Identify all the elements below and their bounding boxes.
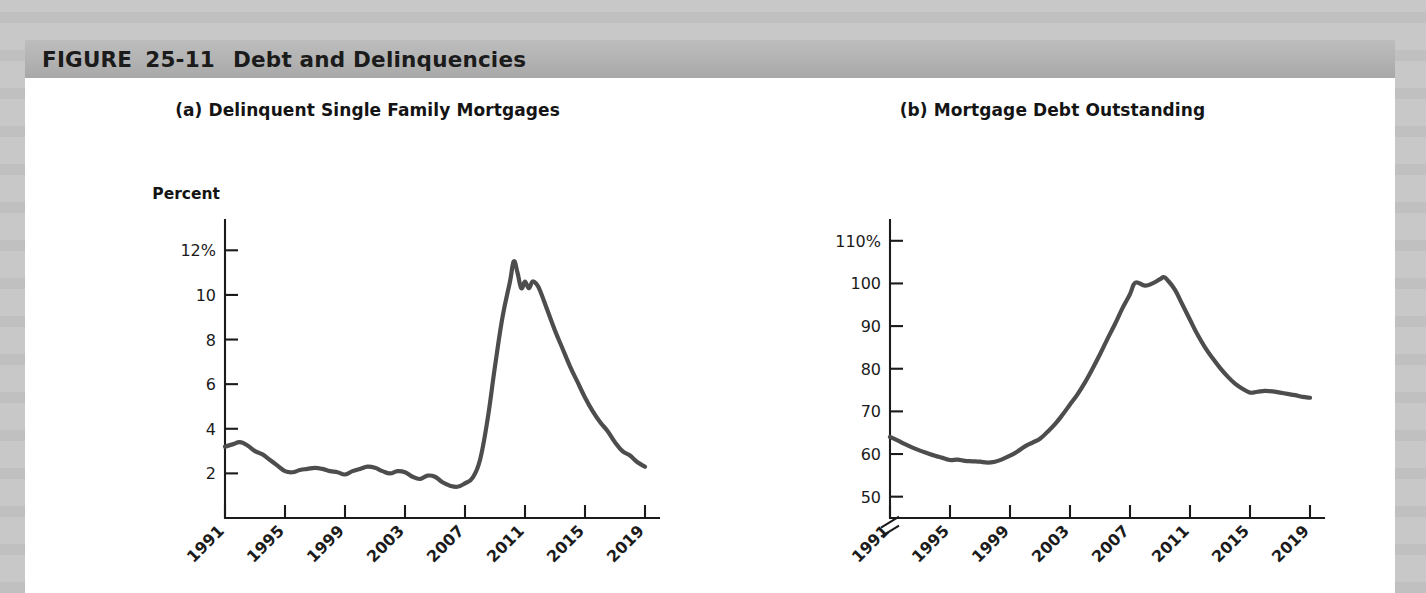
y-tick-label: 50	[861, 488, 881, 507]
x-tick-label: 1995	[908, 521, 953, 566]
panel-b-plot: 5060708090100110%19911995199920032007201…	[710, 78, 1395, 593]
x-tick-label: 2019	[1268, 521, 1313, 566]
x-tick-label: 2019	[603, 521, 648, 566]
x-tick-label: 2011	[1148, 521, 1193, 566]
x-tick-label: 1991	[848, 521, 893, 566]
x-tick-label: 2003	[1028, 521, 1073, 566]
y-tick-label: 12%	[180, 241, 216, 260]
y-tick-label: 4	[206, 420, 216, 439]
y-tick-label: 90	[861, 317, 881, 336]
x-tick-label: 2007	[423, 521, 468, 566]
y-tick-label: 100	[850, 274, 881, 293]
y-tick-label: 60	[861, 445, 881, 464]
x-tick-label: 1999	[968, 521, 1013, 566]
x-tick-label: 1995	[243, 521, 288, 566]
x-tick-label: 2015	[1208, 521, 1253, 566]
y-tick-label: 110%	[835, 232, 881, 251]
figure-title: Debt and Delinquencies	[233, 47, 526, 72]
y-tick-label: 6	[206, 375, 216, 394]
data-series-line	[890, 277, 1310, 463]
panel-b: (b) Mortgage Debt Outstanding Percent of…	[710, 78, 1395, 593]
x-tick-label: 2007	[1088, 521, 1133, 566]
axis-lines	[890, 220, 1324, 518]
panel-a-plot: 24681012%1991199519992003200720112015201…	[25, 78, 710, 593]
y-tick-label: 70	[861, 402, 881, 421]
y-tick-label: 80	[861, 360, 881, 379]
x-tick-label: 2015	[543, 521, 588, 566]
data-series-line	[225, 261, 645, 487]
figure-card: FIGURE 25-11 Debt and Delinquencies (a) …	[25, 40, 1395, 593]
figure-label: FIGURE	[42, 47, 132, 72]
x-tick-label: 2003	[363, 521, 408, 566]
x-tick-label: 2011	[483, 521, 528, 566]
y-tick-label: 10	[196, 286, 216, 305]
y-tick-label: 2	[206, 464, 216, 483]
y-tick-label: 8	[206, 331, 216, 350]
figure-number: 25-11	[145, 47, 215, 72]
panel-a: (a) Delinquent Single Family Mortgages P…	[25, 78, 710, 593]
figure-header-bar: FIGURE 25-11 Debt and Delinquencies	[25, 40, 1395, 78]
x-tick-label: 1999	[303, 521, 348, 566]
x-tick-label: 1991	[183, 521, 228, 566]
